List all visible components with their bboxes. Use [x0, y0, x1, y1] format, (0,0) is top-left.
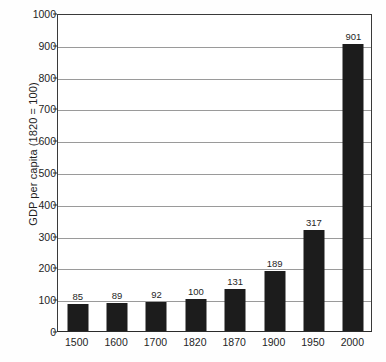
y-tick-mark	[53, 236, 57, 237]
y-tick-label: 900	[26, 40, 56, 52]
y-tick-label: 400	[26, 199, 56, 211]
bar-series: 858992100131189317901	[58, 15, 371, 331]
bar-value-label: 317	[306, 217, 322, 228]
y-tick-mark	[53, 141, 57, 142]
x-tick-label: 1820	[183, 336, 206, 348]
x-tick-label: 1700	[144, 336, 167, 348]
x-tick-label: 2000	[341, 336, 364, 348]
bar-slot: 85	[58, 15, 97, 331]
x-tick-label: 1950	[301, 336, 324, 348]
bar	[107, 303, 128, 331]
bar-value-label: 85	[72, 291, 83, 302]
bar-value-label: 131	[227, 276, 243, 287]
x-tick-label: 1870	[223, 336, 246, 348]
bar-slot: 100	[176, 15, 215, 331]
y-tick-label: 500	[26, 167, 56, 179]
bar	[185, 299, 206, 331]
y-tick-label: 300	[26, 231, 56, 243]
y-axis-tick-labels: 01002003004005006007008009001000	[26, 14, 56, 332]
bar-value-label: 100	[188, 286, 204, 297]
bar-chart: GDP per capita (1820 = 100) 010020030040…	[0, 0, 386, 362]
y-tick-mark	[53, 109, 57, 110]
bar-slot: 89	[97, 15, 136, 331]
x-axis-tick-labels: 15001600170018201870190019502000	[57, 334, 372, 354]
y-tick-label: 600	[26, 135, 56, 147]
y-tick-label: 800	[26, 72, 56, 84]
x-tick-label: 1500	[65, 336, 88, 348]
x-tick-label: 1900	[262, 336, 285, 348]
y-tick-mark	[53, 173, 57, 174]
bar	[343, 44, 364, 331]
y-tick-label: 100	[26, 294, 56, 306]
bar	[225, 289, 246, 331]
y-tick-mark	[53, 300, 57, 301]
bar	[303, 230, 324, 331]
bar-value-label: 92	[151, 289, 162, 300]
bar-value-label: 189	[267, 258, 283, 269]
bar-slot: 131	[216, 15, 255, 331]
y-tick-label: 700	[26, 103, 56, 115]
bar-value-label: 89	[112, 290, 123, 301]
y-tick-mark	[53, 77, 57, 78]
bar	[264, 271, 285, 331]
y-tick-label: 1000	[26, 8, 56, 20]
bar-slot: 317	[294, 15, 333, 331]
y-tick-label: 0	[26, 326, 56, 338]
y-tick-label: 200	[26, 262, 56, 274]
bar-slot: 189	[255, 15, 294, 331]
bar-value-label: 901	[345, 31, 361, 42]
y-tick-mark	[53, 45, 57, 46]
bar-slot: 901	[334, 15, 373, 331]
y-tick-mark	[53, 14, 57, 15]
bar	[146, 302, 167, 331]
plot-area: 858992100131189317901	[57, 14, 372, 332]
y-tick-mark	[53, 268, 57, 269]
x-tick-label: 1600	[104, 336, 127, 348]
y-tick-mark	[53, 204, 57, 205]
y-tick-mark	[53, 332, 57, 333]
bar-slot: 92	[137, 15, 176, 331]
bar	[67, 304, 88, 331]
